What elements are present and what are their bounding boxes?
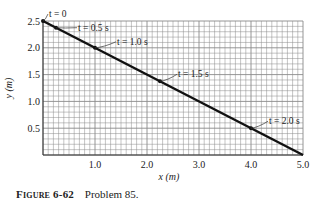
figure-caption: Figure 6-62 Problem 85. (16, 188, 139, 200)
point-label: t = 1.0 s (117, 37, 148, 47)
point-leader-line (251, 121, 268, 128)
x-tick-label: 3.0 (193, 159, 206, 170)
chart: 1.02.03.04.05.00.51.01.52.02.5x (m)y (m)… (0, 0, 327, 205)
figure-caption-text: Problem 85. (85, 188, 139, 200)
y-tick-label: 2.5 (28, 16, 41, 27)
point-label: t = 2.0 s (269, 116, 300, 126)
y-tick-label: 1.5 (28, 69, 41, 80)
x-tick-label: 1.0 (89, 159, 102, 170)
x-tick-label: 5.0 (297, 159, 310, 170)
x-tick-label: 4.0 (245, 159, 258, 170)
y-tick-label: 2.0 (28, 42, 41, 53)
y-axis-label: y (m) (3, 77, 15, 99)
x-tick-label: 2.0 (141, 159, 154, 170)
point-label: t = 1.5 s (178, 69, 209, 79)
y-tick-label: 1.0 (28, 96, 41, 107)
point-label: t = 0 (49, 9, 67, 19)
point-label: t = 0.5 s (78, 23, 109, 33)
y-tick-label: 0.5 (28, 123, 41, 134)
figure-label: Figure 6-62 (16, 188, 74, 200)
x-axis-label: x (m) (158, 171, 180, 183)
